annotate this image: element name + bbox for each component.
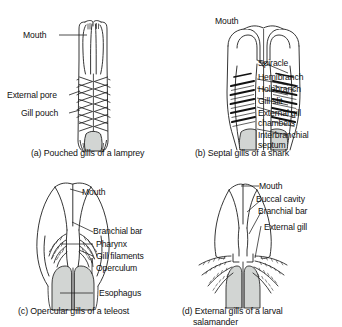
caption-panel-d-line1: (d) External gills of a larval (182, 306, 283, 316)
lamprey-diagram (0, 0, 171, 162)
caption-panel-a: (a) Pouched gills of a lamprey (31, 148, 144, 159)
label-branchial-bar: Branchial bar (93, 226, 142, 236)
label-spiracle: Spiracle (258, 58, 288, 68)
label-external-gill-chambers: External gill chambers (258, 108, 332, 128)
label-mouth: Mouth (259, 181, 282, 191)
caption-panel-d: (d) External gills of a larval salamande… (182, 306, 287, 327)
panel-d-salamander: Mouth Buccal cavity Branchial bar Extern… (171, 162, 342, 324)
label-buccal-cavity: Buccal cavity (256, 194, 305, 204)
label-branchial-bar: Branchial bar (258, 206, 307, 216)
caption-panel-b: (b) Septal gills of a shark (195, 148, 289, 159)
label-holobranch: Holobranch (258, 84, 301, 94)
salamander-diagram (171, 162, 342, 324)
label-gill-slit: Gill slit (258, 96, 282, 106)
label-pharynx: Pharynx (96, 239, 127, 249)
leader-external-gill (255, 226, 261, 258)
label-mouth: Mouth (82, 187, 105, 197)
caption-panel-c: (c) Opercular gills of a teleost (18, 306, 129, 317)
label-mouth: Mouth (215, 16, 238, 26)
label-external-pore: External pore (7, 90, 57, 100)
label-operculum: Operculum (96, 263, 137, 273)
caption-panel-d-line2: salamander (182, 317, 287, 327)
label-gill-filaments: Gill filaments (96, 251, 144, 261)
panel-b-shark: Mouth Spiracle Hemibranch Holobranch Gil… (171, 0, 342, 162)
panel-c-teleost: Mouth Branchial bar Pharynx Gill filamen… (0, 162, 171, 324)
leader-branchial-bar (72, 222, 93, 232)
label-esophagus: Esophagus (99, 288, 141, 298)
panel-a-lamprey: Mouth External pore Gill pouch (a) Pouch… (0, 0, 171, 162)
label-mouth: Mouth (23, 30, 46, 40)
label-gill-pouch: Gill pouch (21, 108, 58, 118)
label-external-gill: External gill (264, 222, 307, 232)
label-hemibranch: Hemibranch (258, 72, 303, 82)
leader-operculum (92, 258, 93, 274)
label-interbranchial-septum: Interbranchial septum (258, 130, 332, 150)
